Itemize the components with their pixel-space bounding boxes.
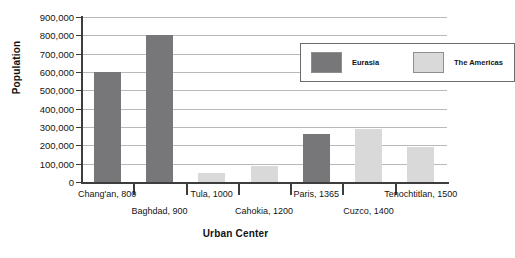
x-axis-separator: [290, 183, 292, 195]
y-axis-tick-label: 0: [69, 177, 74, 188]
chart-legend: Eurasia The Americas: [300, 43, 515, 82]
x-axis-tick-label: Cahokia, 1200: [235, 206, 293, 216]
y-axis-tick-label: 600,000: [40, 67, 74, 78]
y-axis-tick-label: 100,000: [40, 158, 74, 169]
gridline: [81, 164, 447, 165]
y-axis-tick-label: 900,000: [40, 12, 74, 23]
legend-item-eurasia: Eurasia: [311, 51, 379, 74]
y-axis-tick-label: 500,000: [40, 85, 74, 96]
gridline: [81, 90, 447, 91]
x-axis-tick-label: Cuzco, 1400: [343, 206, 394, 216]
x-axis-separator: [238, 183, 240, 195]
bar: [94, 72, 121, 182]
plot-area: 900,000800,000700,000600,000500,000400,0…: [81, 17, 447, 182]
gridline: [81, 35, 447, 36]
x-axis-separator: [342, 183, 344, 195]
x-axis-tick-label: Tula, 1000: [191, 189, 233, 199]
y-axis-tick-label: 200,000: [40, 140, 74, 151]
bar: [355, 129, 382, 182]
gridline: [81, 109, 447, 110]
bar: [303, 134, 330, 182]
gridline: [81, 17, 447, 18]
x-axis-tick-label: Chang'an, 800: [78, 189, 136, 199]
legend-item-the-americas: The Americas: [413, 51, 503, 74]
y-axis-tick-label: 300,000: [40, 122, 74, 133]
x-axis-tick-label: Baghdad, 900: [131, 206, 187, 216]
bar: [146, 35, 173, 182]
y-axis-line: [81, 16, 83, 183]
x-axis-separator: [186, 183, 188, 195]
legend-label-eurasia: Eurasia: [352, 58, 379, 67]
y-axis-tick-label: 800,000: [40, 30, 74, 41]
x-axis-title: Urban Center: [0, 228, 471, 239]
y-axis-tick-label: 700,000: [40, 48, 74, 59]
bar: [198, 173, 225, 182]
legend-label-the-americas: The Americas: [454, 58, 503, 67]
x-axis-tick-label: Tenochtitlan, 1500: [384, 189, 457, 199]
y-axis-title: Population: [11, 20, 22, 116]
legend-swatch-the-americas-icon: [413, 52, 444, 73]
gridline: [81, 127, 447, 128]
x-axis-tick-label: Paris, 1365: [294, 189, 340, 199]
bar: [407, 147, 434, 182]
y-axis-tick-label: 400,000: [40, 103, 74, 114]
gridline: [81, 145, 447, 146]
legend-swatch-eurasia-icon: [311, 52, 342, 73]
bar: [251, 166, 278, 183]
